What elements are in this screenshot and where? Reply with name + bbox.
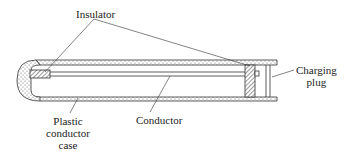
insulator-left <box>30 70 50 78</box>
conductor-rod <box>50 72 247 76</box>
label-case-line3: case <box>46 139 90 151</box>
label-charging-plug-line2: plug <box>296 76 337 88</box>
label-charging-plug: Charging plug <box>296 64 337 88</box>
plastic-case <box>17 60 277 101</box>
label-plastic-conductor-case: Plastic conductor case <box>46 115 90 151</box>
label-conductor: Conductor <box>136 114 182 126</box>
charging-plug <box>266 65 270 97</box>
label-case-line2: conductor <box>46 127 90 139</box>
insulator-right <box>245 65 255 97</box>
label-case-line1: Plastic <box>46 115 90 127</box>
label-insulator: Insulator <box>76 8 115 20</box>
label-charging-plug-line1: Charging <box>296 64 337 76</box>
contact-tab <box>255 71 259 76</box>
